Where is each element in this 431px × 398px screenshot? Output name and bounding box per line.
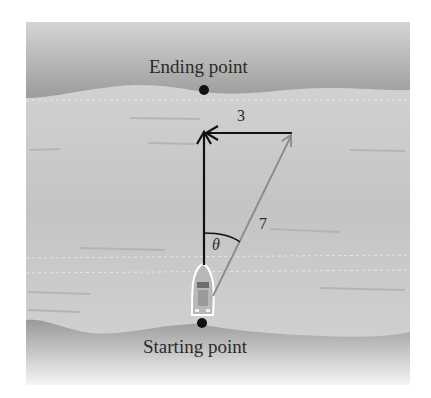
angle-theta-label: θ xyxy=(212,236,220,254)
boat-icon xyxy=(192,264,214,315)
horizontal-vector-label: 3 xyxy=(237,107,245,125)
starting-point-dot xyxy=(197,318,207,328)
ending-point-label: Ending point xyxy=(149,56,248,78)
ending-point-dot xyxy=(199,85,209,95)
river-water xyxy=(26,80,410,340)
resultant-vector-label: 7 xyxy=(259,215,267,233)
starting-point-label: Starting point xyxy=(143,336,247,358)
